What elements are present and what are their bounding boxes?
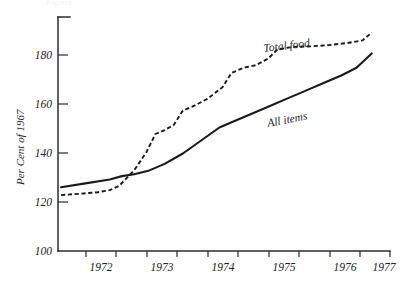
y-tick-label-160: 160 <box>35 98 53 110</box>
x-tick-label-1972: 1972 <box>90 261 113 273</box>
series-line-all-items <box>61 53 372 187</box>
y-axis-title: Per Cent of 1967 <box>14 109 26 186</box>
x-tick-label-1977: 1977 <box>373 261 397 273</box>
y-axis-ticks <box>58 55 68 202</box>
x-axis-ticks <box>86 251 390 257</box>
x-axis-tick-labels: 1972 1973 1974 1975 1976 1977 <box>90 261 397 273</box>
x-tick-label-1973: 1973 <box>151 261 174 273</box>
series-annotation-total-food: Total food <box>263 36 311 55</box>
x-tick-label-1976: 1976 <box>334 261 357 273</box>
y-axis-tick-labels: 180 160 140 120 100 <box>35 49 53 257</box>
chart-figure: Figure 180 160 140 120 100 Per Cent of 1… <box>0 0 405 283</box>
y-tick-label-140: 140 <box>35 147 53 159</box>
x-tick-label-1975: 1975 <box>273 261 296 273</box>
series-line-total-food <box>61 33 372 196</box>
line-chart-canvas: 180 160 140 120 100 Per Cent of 1967 197… <box>0 0 405 283</box>
y-tick-label-180: 180 <box>35 49 53 61</box>
series-annotation-all-items: All items <box>265 109 309 129</box>
x-tick-label-1974: 1974 <box>212 261 235 273</box>
y-tick-label-120: 120 <box>35 196 53 208</box>
y-tick-label-100: 100 <box>35 245 53 257</box>
